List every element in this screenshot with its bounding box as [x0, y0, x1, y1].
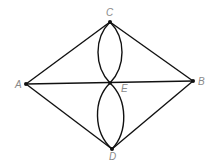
- edge-a-d: [26, 84, 112, 149]
- node-a: [24, 82, 28, 86]
- graph-diagram: A B C D E: [0, 0, 208, 163]
- label-e: E: [121, 83, 128, 94]
- label-b: B: [198, 76, 205, 87]
- node-b: [191, 79, 195, 83]
- edge-c-e-left-arc: [98, 22, 110, 83]
- label-c: C: [106, 7, 114, 18]
- node-c: [108, 20, 112, 24]
- label-d: D: [109, 151, 116, 162]
- label-a: A: [14, 79, 22, 90]
- edge-c-e-right-arc: [110, 22, 122, 83]
- node-e: [108, 81, 112, 85]
